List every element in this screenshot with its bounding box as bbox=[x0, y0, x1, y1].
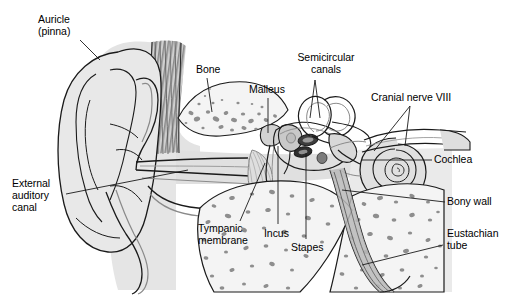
label-eustachian-tube: Eustachiantube bbox=[447, 228, 498, 252]
ear-anatomy-figure: Auricle(pinna) Bone Malleus Semicircular… bbox=[0, 0, 513, 305]
label-cranial-nerve-viii: Cranial nerve VIII bbox=[371, 92, 451, 104]
label-bony-wall: Bony wall bbox=[447, 196, 492, 208]
leader-semicircular-b bbox=[315, 80, 320, 118]
leader-auricle bbox=[80, 40, 100, 60]
label-tympanic-membrane: Tympanicmembrane bbox=[198, 223, 248, 247]
label-stapes: Stapes bbox=[291, 242, 323, 254]
label-auricle-pinna: Auricle(pinna) bbox=[38, 14, 70, 38]
label-malleus: Malleus bbox=[249, 84, 285, 96]
label-bone: Bone bbox=[196, 64, 220, 76]
label-semicircular-canals: Semicircularcanals bbox=[290, 52, 362, 76]
label-external-auditory-canal: Externalauditorycanal bbox=[12, 178, 50, 213]
label-incus: Incus bbox=[264, 228, 289, 240]
label-cochlea: Cochlea bbox=[434, 154, 472, 166]
leader-semicircular-a bbox=[310, 80, 315, 118]
